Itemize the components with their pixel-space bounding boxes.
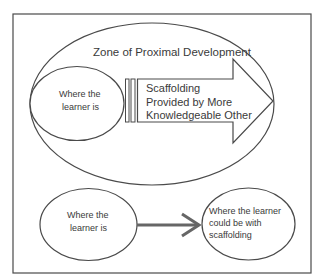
bottom-right-line1: Where the learner [209,207,281,216]
inner-ellipse-line2: learner is [62,103,99,112]
bottom-right-line2: could be with [209,219,262,228]
bottom-left-line1: Where the [67,211,109,220]
arrow-stripe-1 [126,79,130,122]
arrow-stripe-2 [131,79,135,122]
bottom-right-line3: scaffolding [209,231,252,240]
diagram-graphics [0,0,320,279]
scaffold-label-line3: Knowledgeable Other [146,110,252,121]
scaffold-label-line1: Scaffolding [146,83,200,94]
scaffold-label-line2: Provided by More [146,97,232,108]
zpd-diagram: Zone of Proximal Development Where the l… [0,0,320,279]
zone-label: Zone of Proximal Development [93,47,251,59]
bottom-left-line2: learner is [70,224,107,233]
inner-ellipse-line1: Where the [59,90,101,99]
